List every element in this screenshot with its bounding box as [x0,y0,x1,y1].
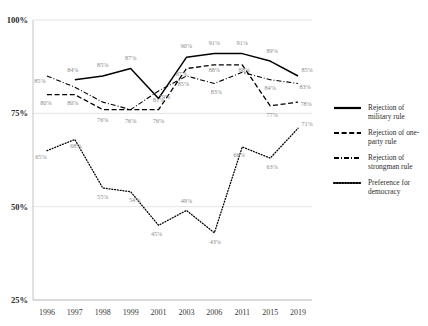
data-series [47,54,298,233]
x-tick-label: 1996 [39,308,55,317]
legend-label: military rule [368,112,405,121]
y-tick-label: 25% [11,295,28,305]
data-label: 71% [301,120,312,127]
x-tick-label: 2006 [206,308,222,317]
grid-lines [33,20,312,300]
data-label: 65% [35,153,46,160]
legend-label: party rule [368,137,397,146]
data-label: 83% [299,83,310,90]
data-label: 91% [237,39,248,46]
data-label: 81% [153,96,164,103]
data-label: 76% [97,116,108,123]
legend-label: Rejection of [368,103,405,112]
data-label: 88% [209,66,220,73]
data-label: 84% [264,84,275,91]
data-label: 80% [40,99,51,106]
x-tick-label: 2015 [262,308,278,317]
legend-label: Rejection of one- [368,128,420,137]
data-label: 85% [301,66,312,73]
legend-label: strongman rule [368,162,413,171]
x-tick-label: 1998 [95,308,111,317]
data-label: 83% [211,88,222,95]
data-label: 68% [70,142,81,149]
legend-label: democracy [368,187,401,196]
series-line [47,65,298,110]
x-tick-label: 1997 [67,308,83,317]
data-label: 55% [97,193,108,200]
y-tick-label: 50% [11,202,28,212]
data-label: 85% [34,77,45,84]
x-tick-label: 2019 [290,308,306,317]
x-tick-label: 2003 [178,308,194,317]
data-label: 63% [266,163,277,170]
x-tick-label: 1999 [123,308,139,317]
legend-label: Preference for [368,178,411,187]
chart-container: 25%50%75%100% 19961997199819992001200320… [0,0,428,326]
x-tick-label: 2001 [151,308,167,317]
data-label: 49% [181,197,192,204]
data-label: 54% [129,196,140,203]
data-label: 87% [176,70,187,77]
data-label: 76% [125,117,136,124]
data-label: 45% [151,230,162,237]
legend-label: Rejection of [368,153,405,162]
y-tick-label: 100% [7,15,28,25]
line-chart: 25%50%75%100% 19961997199819992001200320… [0,0,428,326]
series-line [47,128,298,233]
data-label: 78% [300,100,311,107]
axis-lines [33,20,312,300]
data-label: 88% [239,66,250,73]
x-tick-label: 2011 [234,308,250,317]
y-tick-label: 75% [11,108,28,118]
data-label: 85% [97,61,108,68]
data-label: 43% [210,238,221,245]
y-axis-ticks: 25%50%75%100% [7,15,28,305]
data-label: 76% [153,117,164,124]
x-axis-ticks: 1996199719981999200120032006201120152019 [39,308,306,317]
data-label: 90% [181,42,192,49]
data-label: 91% [209,39,220,46]
data-label: 77% [266,111,277,118]
data-point-labels: 84%85%87%79%90%91%91%89%85%80%80%76%76%7… [34,39,312,245]
data-label: 89% [266,47,277,54]
data-label: 80% [67,99,78,106]
data-label: 87% [125,54,136,61]
data-label: 66% [234,151,245,158]
data-label: 84% [67,66,78,73]
chart-legend: Rejection ofmilitary ruleRejection of on… [334,103,420,196]
data-label: 85% [178,80,189,87]
